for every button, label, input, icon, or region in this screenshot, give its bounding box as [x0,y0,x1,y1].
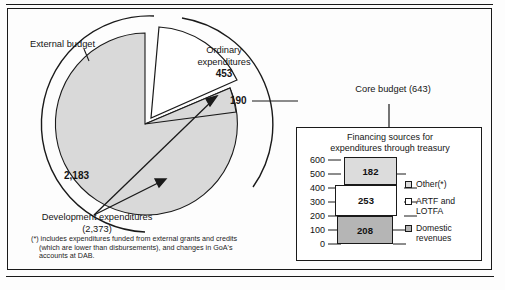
figure-canvas: External budget Ordinary expenditures 45… [0,0,505,290]
inset-title-line-1: Financing sources for [297,132,483,143]
slice-190-value: 190 [230,95,247,106]
pie-chart: External budget Ordinary expenditures 45… [8,9,298,259]
legend-swatch-other-icon [405,181,412,188]
inset-title-line-2: expenditures through treasury [297,143,483,154]
inset-plot: 600 500 400 300 200 100 0 [297,155,483,260]
footnote-line-1: (*) includes expenditures funded from ex… [31,234,237,243]
development-expenditures-label: Development expenditures (2,373) [32,211,162,235]
ordinary-expenditures-value: 453 [188,68,260,79]
legend-row-domestic-revenues[interactable]: Domestic revenues [405,223,481,243]
legend-swatch-artf-lotfa-icon [405,198,412,205]
footnote-line-3: accounts at DAB. [31,252,279,261]
ordinary-expenditures-label: Ordinary expenditures [188,45,260,68]
slice-2183-value: 2,183 [64,170,89,181]
footnote: (*) includes expenditures funded from ex… [31,235,279,261]
legend-row-artf-lotfa[interactable]: ARTF and LOTFA [405,196,481,216]
bar-segment-artf-lotfa[interactable]: 253 [335,185,397,216]
inset-panel: Financing sources for expenditures throu… [296,127,482,261]
frame-top-rule [6,4,493,5]
legend-swatch-domestic-revenues-icon [405,225,412,232]
external-budget-label: External budget [30,39,95,50]
legend-label-artf-lotfa: ARTF and LOTFA [416,196,481,216]
core-budget-label: Core budget (643) [345,84,441,96]
inset-legend: Other(*) ARTF and LOTFA Domestic revenue… [405,179,481,250]
bar-segment-domestic-revenues[interactable]: 208 [337,216,393,244]
legend-label-other: Other(*) [416,179,447,189]
legend-row-other[interactable]: Other(*) [405,179,481,189]
inset-title: Financing sources for expenditures throu… [297,132,483,154]
frame-bottom-rule [6,276,494,277]
bar-segment-other[interactable]: 182 [344,157,397,185]
legend-label-domestic-revenues: Domestic revenues [416,223,481,243]
